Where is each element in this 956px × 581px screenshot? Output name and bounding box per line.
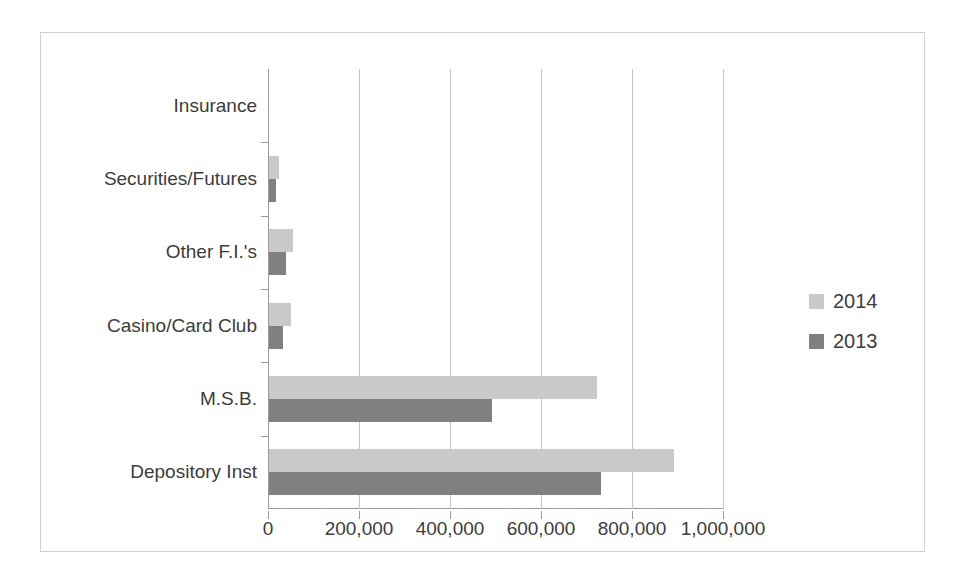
category-tick-mark (261, 216, 268, 217)
chart-figure: InsuranceSecurities/FuturesOther F.I.'sC… (40, 32, 925, 552)
gridline (450, 69, 451, 509)
legend-item-2013[interactable]: 2013 (809, 321, 919, 361)
bar-2014-other-f-i-s[interactable] (269, 229, 293, 252)
bar-2013-m-s-b[interactable] (269, 399, 492, 422)
category-tick-mark (261, 289, 268, 290)
category-tick-mark (261, 142, 268, 143)
legend-label: 2013 (833, 331, 878, 351)
bar-group (269, 303, 723, 349)
value-tick-label: 600,000 (507, 519, 576, 538)
bar-group (269, 229, 723, 275)
category-label-insurance: Insurance (174, 96, 257, 115)
bar-group (269, 376, 723, 422)
category-label-depository-inst: Depository Inst (130, 462, 257, 481)
gridline (359, 69, 360, 509)
value-tick-label: 400,000 (416, 519, 485, 538)
value-axis-line (268, 69, 269, 509)
legend-item-2014[interactable]: 2014 (809, 281, 919, 321)
legend-swatch-icon (809, 334, 824, 349)
value-tick-label: 1,000,000 (681, 519, 766, 538)
category-label-m-s-b: M.S.B. (200, 389, 257, 408)
bar-2013-casino-card-club[interactable] (269, 326, 283, 349)
gridline (723, 69, 724, 509)
chart-legend: 20142013 (809, 281, 919, 361)
category-label-other-f-i-s: Other F.I.'s (166, 242, 257, 261)
gridline (632, 69, 633, 509)
category-tick-mark (261, 436, 268, 437)
bar-2014-securities-futures[interactable] (269, 156, 279, 179)
bar-group (269, 83, 723, 129)
category-label-securities-futures: Securities/Futures (104, 169, 257, 188)
bar-2014-casino-card-club[interactable] (269, 303, 291, 326)
category-tick-mark (261, 362, 268, 363)
value-tick-label: 200,000 (325, 519, 394, 538)
bar-2013-securities-futures[interactable] (269, 179, 276, 202)
bar-group (269, 156, 723, 202)
value-axis-tick-labels: 0200,000400,000600,000800,0001,000,000 (41, 519, 926, 549)
bar-2013-depository-inst[interactable] (269, 472, 601, 495)
plot-area (268, 69, 723, 509)
bar-2013-other-f-i-s[interactable] (269, 252, 286, 275)
value-tick-label: 800,000 (598, 519, 667, 538)
category-label-casino-card-club: Casino/Card Club (107, 316, 257, 335)
bar-group (269, 449, 723, 495)
bar-2014-m-s-b[interactable] (269, 376, 597, 399)
category-axis-line (268, 508, 723, 509)
value-tick-label: 0 (263, 519, 274, 538)
bar-2014-depository-inst[interactable] (269, 449, 674, 472)
legend-label: 2014 (833, 291, 878, 311)
legend-swatch-icon (809, 294, 824, 309)
gridline (541, 69, 542, 509)
category-axis-labels: InsuranceSecurities/FuturesOther F.I.'sC… (41, 69, 257, 509)
